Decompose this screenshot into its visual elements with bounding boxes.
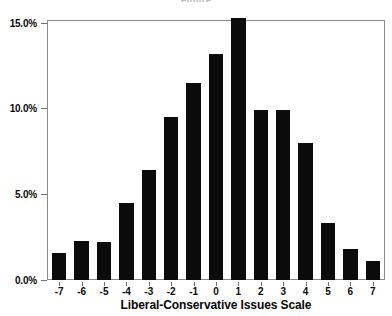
x-axis: -7-6-5-4-3-2-101234567: [48, 282, 384, 298]
bar: [254, 110, 269, 280]
histogram-chart: Figure 0.0%5.0%10.0%15.0% -7-6-5-4-3-2-1…: [0, 0, 392, 316]
x-tick-label: 0: [213, 286, 219, 297]
y-axis: 0.0%5.0%10.0%15.0%: [0, 0, 47, 316]
bar: [343, 249, 358, 280]
x-tick-label: 4: [303, 286, 309, 297]
bar: [209, 54, 224, 280]
bar: [186, 83, 201, 280]
bar: [298, 143, 313, 280]
x-tick-label: 5: [325, 286, 331, 297]
x-tick-label: -6: [77, 286, 86, 297]
x-tick-label: -5: [100, 286, 109, 297]
x-axis-title: Liberal-Conservative Issues Scale: [0, 298, 392, 312]
x-tick-label: -1: [189, 286, 198, 297]
x-tick-label: -4: [122, 286, 131, 297]
y-tick-mark: [41, 23, 47, 24]
bar: [74, 241, 89, 280]
x-tick-label: -2: [167, 286, 176, 297]
y-tick-label: 0.0%: [15, 275, 37, 286]
y-tick-mark: [41, 194, 47, 195]
y-tick-mark: [41, 108, 47, 109]
x-tick-label: -3: [144, 286, 153, 297]
bar: [231, 18, 246, 280]
x-tick-label: 6: [348, 286, 354, 297]
chart-title-clipped: Figure: [0, 0, 392, 2]
y-tick-label: 5.0%: [15, 189, 37, 200]
bar: [97, 242, 112, 280]
bar: [52, 253, 67, 280]
bar: [119, 203, 134, 280]
bar: [142, 170, 157, 280]
bars-container: [48, 21, 384, 280]
bar: [276, 110, 291, 280]
bar: [366, 261, 381, 280]
x-tick-label: 3: [280, 286, 286, 297]
x-tick-label: -7: [55, 286, 64, 297]
x-tick-label: 7: [370, 286, 376, 297]
x-tick-label: 1: [236, 286, 242, 297]
x-tick-label: 2: [258, 286, 264, 297]
bar: [164, 117, 179, 280]
y-tick-mark: [41, 280, 47, 281]
bar: [321, 223, 336, 280]
y-tick-label: 15.0%: [10, 17, 37, 28]
y-tick-label: 10.0%: [10, 103, 37, 114]
